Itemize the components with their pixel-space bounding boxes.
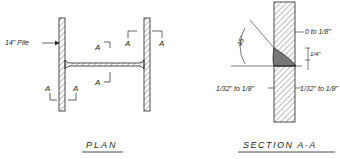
section-plates [273,2,296,122]
svg-text:A: A [124,39,130,48]
plan-title: PLAN [86,140,118,150]
section-title: SECTION A-A [243,140,317,150]
angle-label: 45° [236,35,246,48]
drawing: AA AA AA 14" Pile PLAN 45° 0 to 1/8" 1/4… [0,0,340,159]
left-dim-label: 1/32" to 1/8" [216,85,255,92]
weld-size-label: 1/4" [310,51,321,57]
right-dim-label: 1/32" to 1/8" [300,85,339,92]
pile-leader [42,41,59,45]
svg-text:A: A [94,78,100,87]
h-pile-plan [59,18,150,111]
dimension-lines [231,20,310,88]
svg-text:A: A [94,43,100,52]
svg-text:A: A [72,84,78,93]
pile-label: 14" Pile [5,39,29,46]
gap-top-label: 0 to 1/8" [305,28,331,35]
svg-text:A: A [44,84,50,93]
svg-text:A: A [158,39,164,48]
